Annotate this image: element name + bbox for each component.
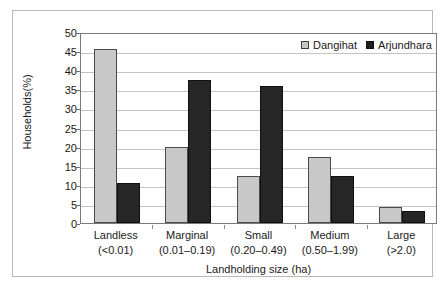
y-axis-tick-label: 45 xyxy=(47,47,77,57)
y-axis-tick-mark xyxy=(76,167,80,168)
legend-swatch-arjundhara xyxy=(366,41,374,49)
x-axis-category-name: Landless xyxy=(80,228,151,243)
y-axis-tick-mark xyxy=(76,109,80,110)
x-axis-category-medium: Medium(0.50–1.99) xyxy=(294,228,365,258)
y-axis-tick-mark xyxy=(76,205,80,206)
x-axis-category-large: Large(>2.0) xyxy=(366,228,437,258)
y-axis-tick-mark xyxy=(76,129,80,130)
figure-frame: 50454035302520151050 Households(%) Dangi… xyxy=(12,10,433,277)
x-axis-category-range: (0.01–0.19) xyxy=(151,243,222,258)
y-axis-tick-label: 10 xyxy=(47,181,77,191)
bar-marginal-arjundhara xyxy=(188,80,211,223)
chart-page: 50454035302520151050 Households(%) Dangi… xyxy=(0,0,445,291)
plot-area xyxy=(80,33,437,224)
x-axis-category-range: (0.20–0.49) xyxy=(223,243,294,258)
legend-label: Arjundhara xyxy=(378,39,432,51)
x-axis-title: Landholding size (ha) xyxy=(80,263,437,275)
legend: DangihatArjundhara xyxy=(299,38,434,52)
y-axis-tick-mark xyxy=(76,52,80,53)
y-axis-tick-mark xyxy=(76,90,80,91)
bar-marginal-dangihat xyxy=(165,147,188,223)
legend-label: Dangihat xyxy=(313,39,357,51)
x-axis-category-landless: Landless(<0.01) xyxy=(80,228,151,258)
x-axis-category-range: (0.50–1.99) xyxy=(294,243,365,258)
bars-layer xyxy=(81,34,436,223)
y-axis-tick-label: 5 xyxy=(47,200,77,210)
x-axis-category-name: Small xyxy=(223,228,294,243)
legend-swatch-dangihat xyxy=(301,41,309,49)
y-axis-tick-mark xyxy=(76,71,80,72)
y-axis-tick-mark xyxy=(76,224,80,225)
bar-large-arjundhara xyxy=(402,211,425,223)
y-axis-tick-label: 30 xyxy=(47,104,77,114)
x-axis-category-range: (>2.0) xyxy=(366,243,437,258)
y-axis-tick-mark xyxy=(76,148,80,149)
x-axis-category-range: (<0.01) xyxy=(80,243,151,258)
x-axis-category-small: Small(0.20–0.49) xyxy=(223,228,294,258)
x-axis-category-name: Large xyxy=(366,228,437,243)
y-axis-tick-label: 15 xyxy=(47,162,77,172)
y-axis-tick-label: 20 xyxy=(47,143,77,153)
legend-item-dangihat: Dangihat xyxy=(301,39,357,51)
bar-landless-dangihat xyxy=(94,49,117,223)
bar-large-dangihat xyxy=(379,207,402,223)
bar-medium-arjundhara xyxy=(331,176,354,223)
y-axis-tick-label: 0 xyxy=(47,219,77,229)
y-axis-tick-label: 35 xyxy=(47,85,77,95)
y-axis-tick-label: 40 xyxy=(47,66,77,76)
legend-item-arjundhara: Arjundhara xyxy=(366,39,432,51)
y-axis-tick-label: 50 xyxy=(47,28,77,38)
x-axis-category-name: Marginal xyxy=(151,228,222,243)
x-axis-category-labels: Landless(<0.01)Marginal(0.01–0.19)Small(… xyxy=(80,228,437,268)
x-axis-category-name: Medium xyxy=(294,228,365,243)
y-axis-tick-mark xyxy=(76,33,80,34)
y-axis-tick-labels: 50454035302520151050 xyxy=(45,33,77,224)
bar-landless-arjundhara xyxy=(117,183,140,223)
bar-small-arjundhara xyxy=(260,86,283,223)
y-axis-tick-label: 25 xyxy=(47,124,77,134)
y-axis-tick-mark xyxy=(76,186,80,187)
x-axis-category-marginal: Marginal(0.01–0.19) xyxy=(151,228,222,258)
y-axis-title: Households(%) xyxy=(21,32,33,192)
bar-medium-dangihat xyxy=(308,157,331,223)
bar-small-dangihat xyxy=(237,176,260,223)
